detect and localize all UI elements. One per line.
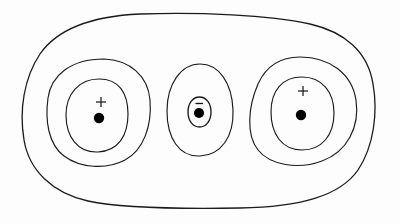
charge-dot-left <box>94 113 104 123</box>
charge-dot-center <box>194 108 204 118</box>
diagram-canvas <box>0 0 400 224</box>
charge-dot-right <box>296 110 306 120</box>
equipotential-diagram <box>0 0 400 224</box>
